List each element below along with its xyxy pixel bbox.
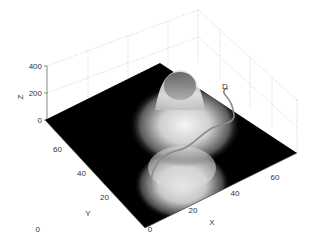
- y-tick-40: 40: [77, 169, 86, 178]
- surface-plot: 400 200 0 Z D 0 20 40 60 Y 0 20 40 60 X: [0, 0, 316, 239]
- x-tick-0: 0: [148, 225, 153, 234]
- z-tick-0: 0: [38, 116, 43, 125]
- z-tick-200: 200: [29, 89, 43, 98]
- peak-2: [148, 146, 216, 190]
- x-tick-40: 40: [231, 189, 240, 198]
- path-label: D: [222, 82, 228, 91]
- y-tick-0: 0: [36, 225, 41, 234]
- z-axis-label: Z: [16, 94, 25, 99]
- x-axis-label: X: [209, 218, 215, 227]
- x-tick-60: 60: [271, 173, 280, 182]
- y-tick-20: 20: [100, 193, 109, 202]
- x-tick-20: 20: [189, 206, 198, 215]
- y-axis-label: Y: [85, 209, 91, 218]
- y-tick-60: 60: [53, 145, 62, 154]
- z-tick-400: 400: [29, 62, 43, 71]
- z-axis: 400 200 0 Z: [16, 62, 47, 125]
